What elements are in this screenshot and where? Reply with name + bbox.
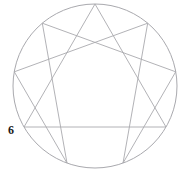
inner-triangle-path xyxy=(24,4,166,127)
hexad-path xyxy=(14,23,175,163)
enneagram-figure: 6 xyxy=(0,0,182,178)
enneagram-canvas xyxy=(0,0,182,178)
outer-circle xyxy=(13,4,177,168)
point-label-6: 6 xyxy=(8,124,14,136)
